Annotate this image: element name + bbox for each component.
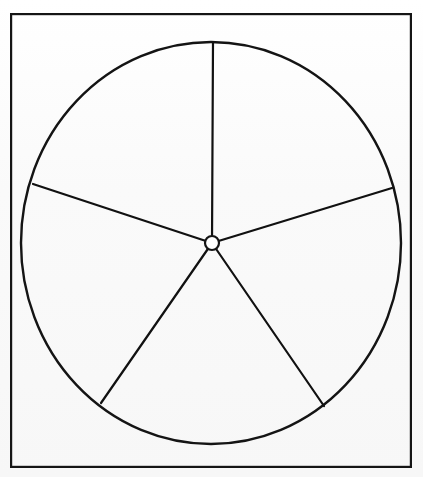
diagram-canvas — [0, 0, 423, 477]
spoke-lower-left — [101, 243, 212, 403]
spoke-upper-left — [33, 184, 212, 243]
spoke-lower-right — [212, 243, 324, 406]
spoke-north — [212, 42, 213, 243]
spoke-upper-right — [212, 188, 392, 243]
diagram-page — [0, 0, 423, 477]
center-hub — [205, 236, 219, 250]
